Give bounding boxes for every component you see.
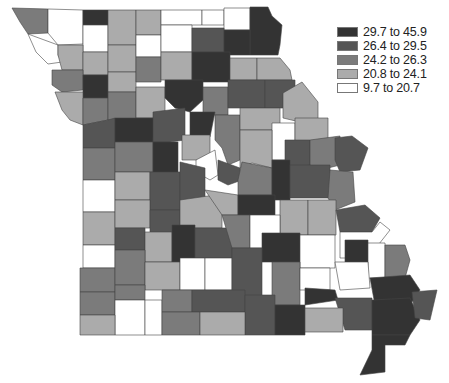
county-region	[115, 250, 145, 285]
county-region	[308, 200, 336, 235]
county-region	[262, 233, 300, 262]
county-region	[162, 290, 192, 312]
county-region	[200, 312, 245, 335]
county-region	[150, 172, 180, 210]
county-region	[83, 25, 108, 52]
county-region	[205, 258, 232, 290]
county-region	[372, 298, 420, 335]
county-region	[385, 245, 410, 278]
legend-swatch-class-5	[337, 83, 358, 93]
county-region	[83, 180, 115, 212]
county-region	[300, 235, 335, 268]
map-legend: 29.7 to 45.9 26.4 to 29.5 24.2 to 26.3 2…	[337, 25, 427, 95]
county-region	[224, 8, 250, 30]
county-region	[115, 142, 153, 172]
county-region	[136, 10, 161, 35]
county-region	[228, 80, 265, 108]
county-region	[58, 45, 83, 70]
county-region	[108, 92, 136, 122]
legend-item: 20.8 to 24.1	[337, 67, 427, 81]
county-region	[145, 232, 172, 262]
county-region	[145, 262, 180, 290]
county-region	[115, 285, 145, 300]
county-region	[335, 262, 370, 290]
county-region	[272, 262, 300, 305]
county-region	[80, 292, 115, 315]
county-region	[115, 228, 145, 250]
county-region	[305, 288, 338, 305]
county-region	[115, 118, 155, 142]
county-region	[136, 57, 161, 82]
county-region	[300, 268, 330, 290]
county-region	[108, 45, 136, 72]
county-region	[161, 25, 192, 52]
county-region	[52, 70, 83, 92]
legend-label: 20.8 to 24.1	[363, 67, 427, 81]
county-region	[83, 148, 115, 180]
county-region	[195, 228, 232, 258]
county-region	[153, 108, 185, 142]
legend-label: 24.2 to 26.3	[363, 53, 427, 67]
county-region	[165, 80, 203, 112]
county-region	[245, 295, 275, 335]
county-region	[162, 312, 200, 335]
county-region	[238, 195, 275, 215]
county-region	[145, 300, 162, 335]
county-region	[153, 142, 178, 175]
legend-label: 9.7 to 20.7	[363, 81, 420, 95]
legend-label: 26.4 to 29.5	[363, 39, 427, 53]
county-region	[290, 165, 330, 198]
county-region	[202, 10, 224, 25]
county-region	[190, 112, 215, 137]
county-region	[172, 225, 195, 262]
county-region	[83, 10, 108, 25]
legend-swatch-class-1	[337, 27, 358, 37]
county-region	[108, 72, 136, 92]
county-region	[368, 243, 385, 278]
legend-swatch-class-4	[337, 69, 358, 79]
legend-label: 29.7 to 45.9	[363, 25, 427, 39]
county-region	[180, 162, 205, 200]
legend-item: 29.7 to 45.9	[337, 25, 427, 39]
county-region	[215, 115, 240, 165]
legend-swatch-class-3	[337, 55, 358, 65]
county-region	[192, 28, 224, 52]
county-region	[83, 75, 108, 98]
county-region	[161, 52, 192, 80]
county-region	[80, 315, 115, 335]
legend-swatch-class-2	[337, 41, 358, 51]
legend-item: 26.4 to 29.5	[337, 39, 427, 53]
county-region	[257, 58, 292, 80]
county-region	[238, 162, 272, 195]
county-region	[180, 258, 205, 290]
county-region	[48, 9, 83, 45]
county-region	[272, 160, 290, 200]
county-region	[360, 335, 410, 375]
county-region	[80, 268, 115, 292]
county-region	[336, 205, 380, 232]
county-region	[412, 290, 437, 320]
county-region	[12, 8, 48, 34]
county-region	[115, 172, 150, 200]
county-region	[55, 92, 83, 125]
county-region	[192, 290, 245, 312]
legend-item: 24.2 to 26.3	[337, 53, 427, 67]
county-region	[280, 200, 308, 235]
county-region	[108, 10, 136, 45]
county-region	[192, 52, 230, 82]
county-region	[115, 200, 150, 228]
county-region	[335, 136, 368, 172]
county-region	[345, 240, 368, 262]
county-region	[136, 35, 161, 57]
county-region	[305, 308, 343, 332]
county-region	[83, 52, 108, 75]
county-region	[115, 300, 145, 335]
county-region	[161, 10, 202, 25]
legend-item: 9.7 to 20.7	[337, 81, 427, 95]
county-region	[83, 212, 115, 245]
county-region	[83, 245, 115, 268]
county-region	[224, 30, 250, 55]
county-region	[203, 87, 228, 115]
county-region	[250, 7, 282, 55]
county-region	[275, 305, 305, 335]
